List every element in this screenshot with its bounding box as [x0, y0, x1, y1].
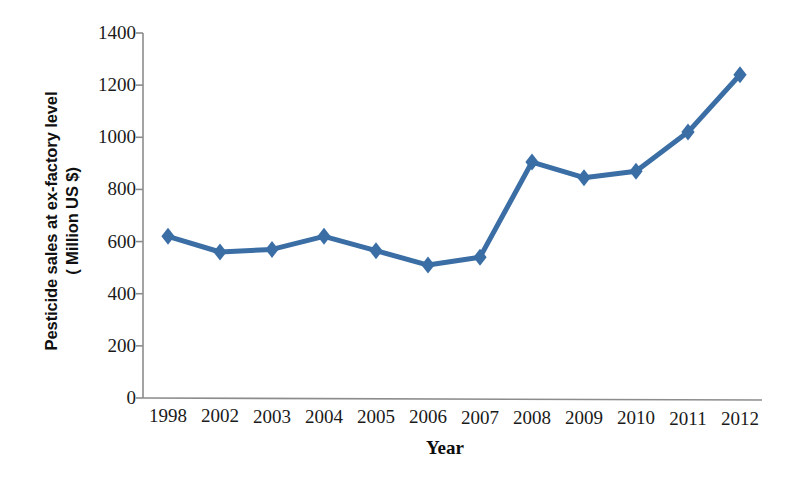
axis-lines	[143, 33, 762, 400]
data-point-marker	[161, 228, 174, 245]
data-point-marker	[369, 242, 382, 259]
data-point-marker	[317, 228, 330, 245]
data-point-marker	[421, 257, 434, 274]
x-axis-line	[143, 398, 762, 400]
data-point-marker	[577, 169, 590, 186]
line-chart: Pesticide sales at ex-factory level ( Mi…	[0, 0, 798, 481]
series-line	[168, 75, 740, 265]
plot-area	[0, 0, 798, 481]
y-axis-ticks	[136, 33, 143, 398]
series-markers	[161, 66, 746, 273]
data-series-group	[161, 66, 746, 273]
data-point-marker	[213, 244, 226, 261]
data-point-marker	[265, 241, 278, 258]
